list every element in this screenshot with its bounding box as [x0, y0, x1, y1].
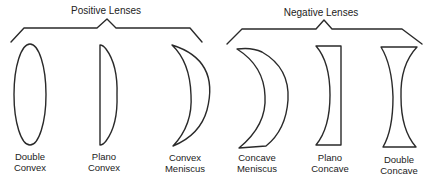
label-line1: Double [0, 151, 70, 162]
positive-lenses-brace [11, 19, 202, 42]
label-line1: Plano [290, 152, 370, 163]
concave-meniscus-lens-icon [237, 48, 288, 148]
negative-lenses-brace [227, 20, 422, 44]
label-plano-concave: Plano Concave [290, 152, 370, 174]
plano-concave-lens-icon [316, 46, 341, 145]
label-plano-convex: Plano Convex [64, 151, 144, 173]
label-line2: Concave [290, 163, 370, 174]
label-line1: Double [359, 154, 429, 165]
label-concave-meniscus: Concave Meniscus [217, 152, 297, 174]
convex-meniscus-lens-icon [172, 45, 210, 146]
label-line1: Convex [145, 152, 225, 163]
label-convex-meniscus: Convex Meniscus [145, 152, 225, 174]
label-line1: Concave [217, 152, 297, 163]
label-line2: Meniscus [145, 163, 225, 174]
label-line2: Convex [64, 162, 144, 173]
label-double-convex: Double Convex [0, 151, 70, 173]
positive-lenses-title: Positive Lenses [46, 5, 166, 16]
label-line2: Concave [359, 165, 429, 176]
negative-lenses-title: Negative Lenses [261, 7, 381, 18]
double-concave-lens-icon [381, 47, 417, 147]
label-line2: Convex [0, 162, 70, 173]
label-line2: Meniscus [217, 163, 297, 174]
plano-convex-lens-icon [100, 45, 117, 145]
double-convex-lens-icon [14, 44, 46, 145]
label-line1: Plano [64, 151, 144, 162]
label-double-concave: Double Concave [359, 154, 429, 176]
